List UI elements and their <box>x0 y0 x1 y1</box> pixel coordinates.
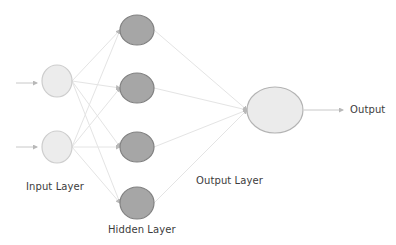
hidden-layer-label: Hidden Layer <box>108 224 176 235</box>
edge-h1-o1 <box>154 30 247 110</box>
input-node-i1 <box>42 65 72 97</box>
edge-i2-h2 <box>72 88 120 147</box>
edge-i2-h1 <box>72 30 120 147</box>
output-layer-label: Output Layer <box>196 175 263 186</box>
edge-i1-h3 <box>72 81 120 147</box>
hidden-node-h3 <box>120 132 154 162</box>
edge-i2-h4 <box>72 147 120 203</box>
neural-network-diagram <box>0 0 396 245</box>
input-layer-label: Input Layer <box>26 181 84 192</box>
edge-h2-o1 <box>154 88 247 110</box>
input-node-i2 <box>42 131 72 163</box>
output-label: Output <box>350 104 385 115</box>
edge-i1-h2 <box>72 81 120 88</box>
hidden-node-h4 <box>120 187 154 219</box>
edge-h3-o1 <box>154 110 247 147</box>
hidden-node-h2 <box>120 73 154 103</box>
output-node-o1 <box>247 87 303 133</box>
edge-i1-h1 <box>72 30 120 81</box>
edge-h4-o1 <box>154 110 247 203</box>
hidden-node-h1 <box>120 15 154 45</box>
